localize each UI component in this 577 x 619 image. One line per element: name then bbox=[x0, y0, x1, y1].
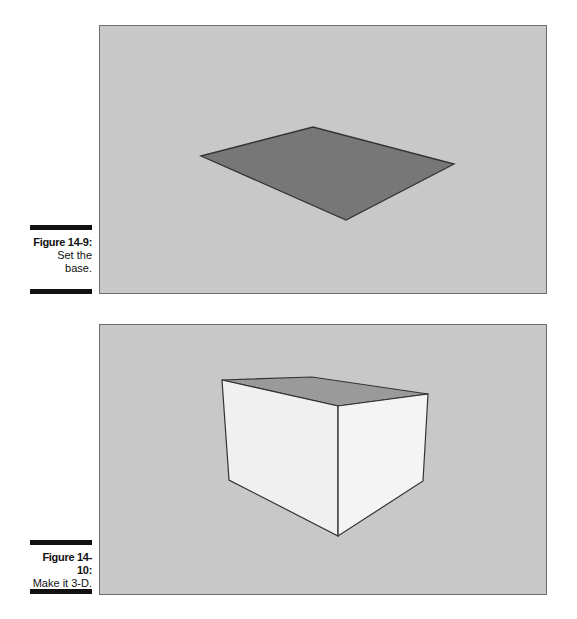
figure-14-9-caption: Figure 14-9: Set the base. bbox=[30, 236, 92, 275]
caption-line: Set the bbox=[30, 249, 92, 262]
caption-line: base. bbox=[30, 262, 92, 275]
caption-rule-bottom bbox=[30, 289, 92, 294]
figure-14-10-caption: Figure 14-10: Make it 3-D. bbox=[30, 551, 92, 590]
figure-label: Figure 14-9: bbox=[30, 236, 92, 249]
caption-rule-bottom bbox=[30, 589, 92, 594]
box-shape bbox=[100, 325, 548, 596]
figure-14-10-viewport bbox=[99, 324, 547, 595]
caption-rule-top bbox=[30, 540, 92, 545]
flat-rectangle-shape bbox=[100, 26, 548, 295]
figure-label: Figure 14-10: bbox=[30, 551, 92, 577]
figure-14-9-viewport bbox=[99, 25, 547, 294]
caption-rule-top bbox=[30, 225, 92, 230]
